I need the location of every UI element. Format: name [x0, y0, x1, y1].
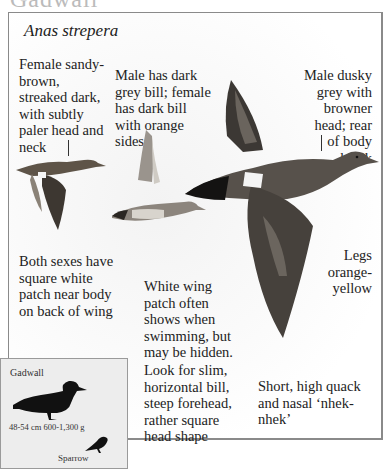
reference-bird-name: Sparrow [58, 453, 89, 463]
silhouette-bird-name: Gadwall [10, 367, 44, 378]
note-wing-patch: Both sexes have square white patch near … [19, 253, 119, 319]
female-gadwall-flying-illustration [12, 150, 112, 235]
size-comparison-box: Gadwall 48-54 cm 600-1,300 g Sparrow [0, 358, 128, 469]
sparrow-silhouette-icon [85, 435, 109, 453]
note-head-shape: Look for slim, horizontal bill, steep fo… [144, 362, 244, 445]
note-voice: Short, high quack and nasal ‘nhek-nhek’ [258, 378, 378, 428]
note-female-plumage: Female sandy-brown, streaked dark, with … [19, 56, 105, 155]
size-measurement: 48-54 cm 600-1,300 g [9, 422, 85, 432]
male-gadwall-flying-illustration [183, 76, 383, 346]
species-latin-name: Anas strepera [24, 21, 118, 41]
gadwall-silhouette-icon [11, 379, 87, 421]
